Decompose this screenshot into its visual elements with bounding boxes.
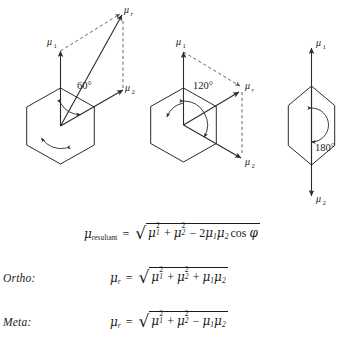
ortho-term2-symbol: μ <box>177 270 185 284</box>
term2-symbol: μ <box>174 226 182 240</box>
svg-text:r: r <box>252 86 255 93</box>
meta-term2-subsup: 22 <box>185 313 190 325</box>
angle-label-60: 60° <box>77 80 92 91</box>
diagram-meta-120: 120° μ 1 μ 2 μ r <box>151 36 256 169</box>
radical-ortho: √μ21+μ22+μ1μ2 <box>138 268 228 286</box>
dipole-moment-figure: 60° μ 1 μ 2 μ r <box>0 0 356 351</box>
meta-label: Meta: <box>3 316 31 328</box>
svg-text:μ: μ <box>315 193 321 204</box>
radicand-ortho: μ21+μ22+μ1μ2 <box>149 267 227 285</box>
equations-block: μresultant=√μ21+μ22−2μ1μ2cos φ Ortho: μr… <box>0 222 356 348</box>
ortho-term4-symbol: μ <box>214 270 222 284</box>
label-mu1-diagram3: μ 1 <box>315 37 326 50</box>
angle-arc-120-left-diagram2 <box>167 103 184 117</box>
radical-sign-ortho: √ <box>139 267 150 287</box>
svg-text:μ: μ <box>175 36 181 47</box>
radical-meta: √μ21+μ22−μ1μ2 <box>138 312 228 330</box>
svg-text:μ: μ <box>46 36 52 47</box>
term3-symbol: μ <box>205 226 213 240</box>
radical-general: √μ21+μ22−2μ1μ2cos φ <box>134 224 260 242</box>
svg-text:μ: μ <box>244 156 250 167</box>
label-mu1-diagram2: μ 1 <box>175 36 186 49</box>
angle-arc-60-diagram1 <box>42 138 67 149</box>
equals-sign-general: = <box>117 227 134 241</box>
meta-term1-symbol: μ <box>151 314 159 328</box>
svg-text:r: r <box>131 10 134 17</box>
angle-label-180: 180° <box>315 142 335 153</box>
ortho-term1-symbol: μ <box>151 270 159 284</box>
phi-symbol: φ <box>249 226 257 240</box>
ortho-operator-1: + <box>164 270 177 284</box>
mu-r-symbol-ortho: μ <box>110 271 118 285</box>
svg-text:μ: μ <box>244 80 250 91</box>
diagram-para-180: 180° μ 1 μ 2 <box>288 37 335 206</box>
term2-subsup: 22 <box>182 225 187 237</box>
svg-text:μ: μ <box>124 82 130 93</box>
meta-term4-symbol: μ <box>214 314 222 328</box>
equals-sign-meta: = <box>121 315 138 329</box>
svg-text:2: 2 <box>252 162 256 169</box>
cosine-function: cos <box>228 226 246 240</box>
meta-operator-2: − <box>190 314 203 328</box>
term1-symbol: μ <box>148 226 156 240</box>
equation-row-ortho: Ortho: μr=√μ21+μ22+μ1μ2 <box>0 266 356 304</box>
label-mu1-diagram1: μ 1 <box>46 36 57 49</box>
mu-resultant-subscript: resultant <box>92 234 118 242</box>
ortho-term2-subsup: 22 <box>185 269 190 281</box>
diagram-ortho-60: 60° μ 1 μ 2 μ r <box>27 4 136 164</box>
angle-arc-180-diagram3 <box>312 108 329 142</box>
label-mur-diagram2: μ r <box>244 80 255 93</box>
equation-row-general: μresultant=√μ21+μ22−2μ1μ2cos φ <box>0 222 356 260</box>
equals-sign-ortho: = <box>121 271 138 285</box>
ortho-label: Ortho: <box>3 272 36 284</box>
operator-2: − <box>187 226 200 240</box>
svg-text:2: 2 <box>132 88 136 95</box>
svg-text:1: 1 <box>54 42 57 49</box>
meta-term2-symbol: μ <box>177 314 185 328</box>
mu-resultant-symbol: μ <box>84 227 92 241</box>
meta-operator-1: + <box>164 314 177 328</box>
equation-row-meta: Meta: μr=√μ21+μ22−μ1μ2 <box>0 310 356 348</box>
svg-text:μ: μ <box>123 4 129 15</box>
radicand-meta: μ21+μ22−μ1μ2 <box>149 311 227 329</box>
label-mur-diagram1: μ r <box>123 4 134 17</box>
mu-r-symbol-meta: μ <box>110 315 118 329</box>
term1-subsup: 21 <box>156 225 161 237</box>
ortho-operator-2: + <box>190 270 203 284</box>
radical-sign-general: √ <box>135 223 146 243</box>
svg-text:μ: μ <box>315 37 321 48</box>
svg-text:1: 1 <box>323 43 326 50</box>
diagrams-svg: 60° μ 1 μ 2 μ r <box>0 0 356 210</box>
vector-mur-diagram2 <box>184 92 240 125</box>
meta-term4-subscript: 2 <box>222 320 226 329</box>
dashed-mu1-to-mur-diagram1 <box>61 14 121 51</box>
meta-term1-subsup: 21 <box>159 313 164 325</box>
angle-label-120: 120° <box>193 80 213 91</box>
equation-general: μresultant=√μ21+μ22−2μ1μ2cos φ <box>84 224 260 242</box>
vector-mu2-diagram2 <box>184 125 242 158</box>
label-mu2-diagram3: μ 2 <box>315 193 327 206</box>
operator-1: + <box>161 226 174 240</box>
ortho-term1-subsup: 21 <box>159 269 164 281</box>
term4-symbol: μ <box>217 226 225 240</box>
radicand-general: μ21+μ22−2μ1μ2cos φ <box>146 223 260 241</box>
label-mu2-diagram2: μ 2 <box>244 156 256 169</box>
ortho-term4-subscript: 2 <box>222 276 226 285</box>
svg-text:1: 1 <box>183 42 186 49</box>
svg-text:2: 2 <box>323 199 327 206</box>
radical-sign-meta: √ <box>139 311 150 331</box>
equation-ortho: μr=√μ21+μ22+μ1μ2 <box>110 268 228 286</box>
label-mu2-diagram1: μ 2 <box>124 82 136 95</box>
equation-meta: μr=√μ21+μ22−μ1μ2 <box>110 312 228 330</box>
